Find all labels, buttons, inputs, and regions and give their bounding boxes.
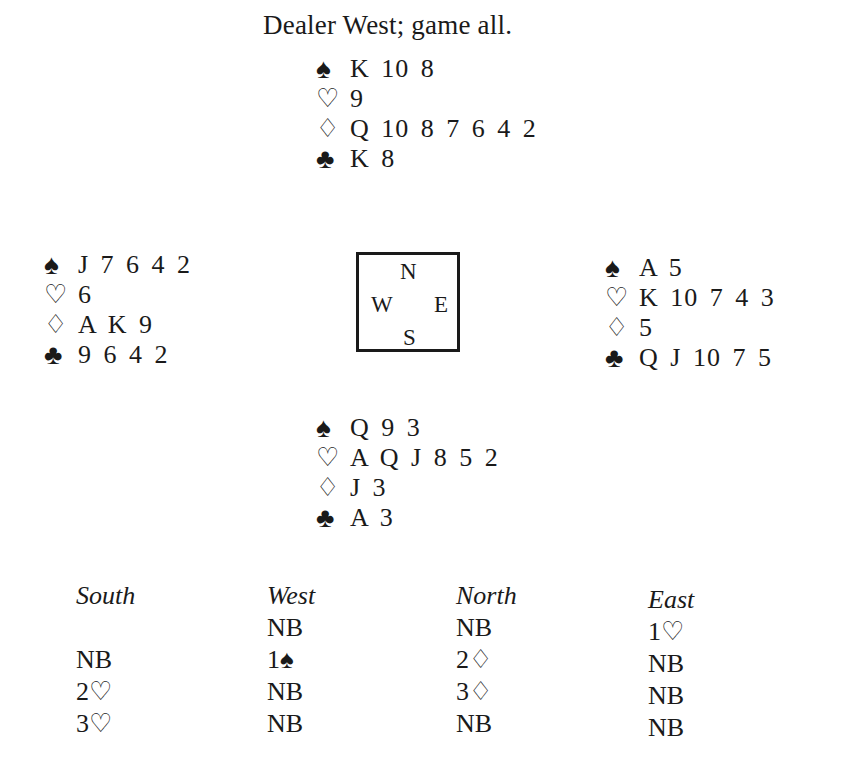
west-diamonds-row: ♢ A K 9 [44,310,191,340]
south-clubs-row: ♣ A 3 [316,503,499,533]
auction-column-west: West NB 1♠ NB NB [267,580,315,740]
south-spades: Q 9 3 [350,413,421,443]
west-clubs-row: ♣ 9 6 4 2 [44,340,191,370]
auction-bid: NB [267,708,315,740]
auction-bid: 2♡ [76,676,135,708]
hand-west: ♠ J 7 6 4 2 ♡ 6 ♢ A K 9 ♣ 9 6 4 2 [44,250,191,370]
north-clubs-row: ♣ K 8 [316,144,537,174]
auction-bid [76,612,135,644]
auction-bid: NB [267,612,315,644]
auction-bid: NB [267,676,315,708]
auction-header-east: East [648,584,694,616]
west-hearts: 6 [78,280,92,310]
south-diamonds-row: ♢ J 3 [316,473,499,503]
club-icon: ♣ [44,340,78,370]
auction-header-south: South [76,580,135,612]
south-diamonds: J 3 [350,473,387,503]
north-hearts: 9 [350,84,364,114]
south-hearts: A Q J 8 5 2 [350,443,499,473]
heart-icon: ♡ [605,283,639,313]
auction-bid: NB [648,648,694,680]
east-hearts-row: ♡ K 10 7 4 3 [605,283,775,313]
east-spades-row: ♠ A 5 [605,253,775,283]
east-diamonds-row: ♢ 5 [605,313,775,343]
spade-icon: ♠ [316,413,350,443]
compass-south-label: S [403,325,416,351]
compass-box: N W E S [356,252,460,352]
north-diamonds: Q 10 8 7 6 4 2 [350,114,537,144]
diamond-icon: ♢ [316,114,350,144]
auction-header-west: West [267,580,315,612]
auction-bid: 1♡ [648,616,694,648]
auction-bid: 1♠ [267,644,315,676]
south-clubs: A 3 [350,503,394,533]
spade-icon: ♠ [605,253,639,283]
auction-bid: 2♢ [456,644,517,676]
heart-icon: ♡ [44,280,78,310]
auction-bid: NB [456,708,517,740]
hand-south: ♠ Q 9 3 ♡ A Q J 8 5 2 ♢ J 3 ♣ A 3 [316,413,499,533]
auction-bid: NB [456,612,517,644]
club-icon: ♣ [316,144,350,174]
auction-header-north: North [456,580,517,612]
club-icon: ♣ [605,343,639,373]
club-icon: ♣ [316,503,350,533]
diamond-icon: ♢ [605,313,639,343]
east-clubs: Q J 10 7 5 [639,343,772,373]
west-spades-row: ♠ J 7 6 4 2 [44,250,191,280]
spade-icon: ♠ [316,54,350,84]
north-spades-row: ♠ K 10 8 [316,54,537,84]
north-diamonds-row: ♢ Q 10 8 7 6 4 2 [316,114,537,144]
auction-bid: NB [76,644,135,676]
north-spades: K 10 8 [350,54,435,84]
east-diamonds: 5 [639,313,653,343]
north-hearts-row: ♡ 9 [316,84,537,114]
compass-north-label: N [400,259,417,285]
diamond-icon: ♢ [316,473,350,503]
auction-bid: NB [648,712,694,744]
south-hearts-row: ♡ A Q J 8 5 2 [316,443,499,473]
west-hearts-row: ♡ 6 [44,280,191,310]
compass-west-label: W [371,292,393,318]
hand-north: ♠ K 10 8 ♡ 9 ♢ Q 10 8 7 6 4 2 ♣ K 8 [316,54,537,174]
east-clubs-row: ♣ Q J 10 7 5 [605,343,775,373]
heart-icon: ♡ [316,84,350,114]
west-spades: J 7 6 4 2 [78,250,191,280]
north-clubs: K 8 [350,144,395,174]
diamond-icon: ♢ [44,310,78,340]
auction-column-north: North NB 2♢ 3♢ NB [456,580,517,740]
auction-column-south: South NB 2♡ 3♡ [76,580,135,740]
compass-east-label: E [434,292,448,318]
auction-bid: 3♡ [76,708,135,740]
auction-bid: 3♢ [456,676,517,708]
auction-column-east: East 1♡ NB NB NB [648,584,694,744]
deal-caption: Dealer West; game all. [263,10,512,41]
west-clubs: 9 6 4 2 [78,340,169,370]
west-diamonds: A K 9 [78,310,153,340]
heart-icon: ♡ [316,443,350,473]
hand-east: ♠ A 5 ♡ K 10 7 4 3 ♢ 5 ♣ Q J 10 7 5 [605,253,775,373]
east-spades: A 5 [639,253,683,283]
south-spades-row: ♠ Q 9 3 [316,413,499,443]
east-hearts: K 10 7 4 3 [639,283,775,313]
spade-icon: ♠ [44,250,78,280]
auction-bid: NB [648,680,694,712]
